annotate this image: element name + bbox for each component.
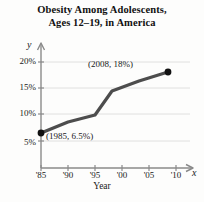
x-axis-title: Year bbox=[0, 181, 204, 191]
y-tick-label-15: 15% bbox=[12, 82, 36, 92]
y-axis-symbol: y bbox=[27, 39, 31, 50]
annotation-1985: (1985, 6.5%) bbox=[46, 131, 93, 141]
x-tick-label-95: '95 bbox=[82, 170, 108, 180]
data-line bbox=[41, 72, 168, 133]
y-tick-label-10: 10% bbox=[12, 108, 36, 118]
y-tick-label-5: 5% bbox=[12, 137, 36, 147]
y-tick-label-20: 20% bbox=[12, 56, 36, 66]
x-tick-label-90: '90 bbox=[55, 170, 81, 180]
data-point-marker-end bbox=[165, 69, 172, 76]
x-tick-label-00: '00 bbox=[109, 170, 135, 180]
x-tick-label-05: '05 bbox=[136, 170, 162, 180]
annotation-2008: (2008, 18%) bbox=[88, 59, 133, 69]
obesity-line-chart-figure: Obesity Among Adolescents, Ages 12–19, i… bbox=[0, 0, 204, 202]
x-axis-symbol: x bbox=[192, 167, 196, 178]
x-tick-label-85: '85 bbox=[28, 170, 54, 180]
x-tick-label-10: '10 bbox=[163, 170, 189, 180]
data-point-marker-start bbox=[38, 130, 45, 137]
